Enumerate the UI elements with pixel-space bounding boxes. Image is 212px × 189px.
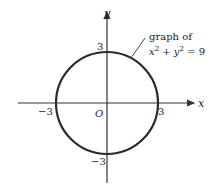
eq-rhs: = 9 — [184, 46, 205, 57]
eq-plus: + — [159, 46, 174, 57]
annotation-line1: graph of — [149, 31, 193, 42]
tick-y-pos: 3 — [97, 41, 103, 52]
annotation-leader — [131, 38, 145, 58]
tick-x-pos: 3 — [158, 106, 164, 117]
y-axis-label: y — [103, 7, 111, 20]
tick-y-neg: −3 — [91, 156, 106, 167]
tick-x-neg: −3 — [38, 106, 53, 117]
x-axis-label: x — [198, 97, 205, 110]
origin-label: O — [95, 108, 103, 119]
circle-diagram: x y O 3 −3 −3 3 graph of x2 + y2 = 9 — [0, 0, 212, 189]
annotation-equation: x2 + y2 = 9 — [149, 45, 205, 57]
